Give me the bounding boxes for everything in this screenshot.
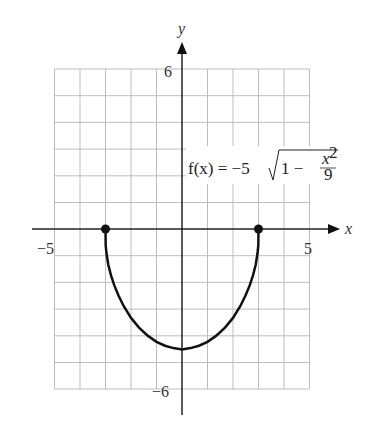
y-tick-min: −6: [152, 383, 169, 400]
x-axis-arrow-icon: [328, 224, 340, 234]
svg-text:f(x) = −5: f(x) = −5: [188, 159, 250, 178]
y-axis-label: y: [176, 20, 186, 38]
x-axis-label: x: [344, 220, 352, 237]
endpoint-left: [101, 225, 110, 234]
y-tick-max: 6: [164, 63, 172, 80]
svg-text:9: 9: [324, 165, 333, 184]
endpoint-right: [254, 225, 263, 234]
x-tick-min: −5: [37, 240, 54, 257]
svg-text:1 −: 1 −: [281, 159, 303, 178]
y-axis-arrow-icon: [177, 42, 187, 54]
svg-text:2: 2: [329, 143, 338, 162]
x-axis: [32, 224, 340, 234]
x-tick-max: 5: [304, 240, 312, 257]
function-graph: y x 6 −6 −5 5 f(x) = −5 1 − x 2 9: [0, 0, 373, 435]
